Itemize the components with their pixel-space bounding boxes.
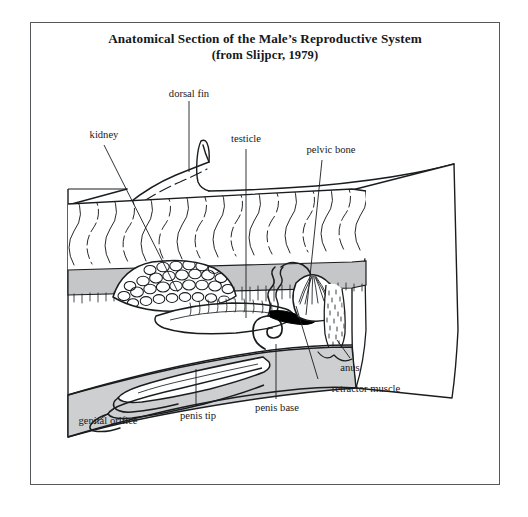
label-pelvic-bone: pelvic bone [306,144,355,155]
label-kidney: kidney [90,129,120,140]
label-testicle: testicle [231,133,261,144]
label-penis-base: penis base [255,402,299,413]
tailstock-outline [352,164,458,398]
figure-root: Anatomical Section of the Male’s Reprodu… [0,0,528,517]
label-dorsal-fin: dorsal fin [169,88,210,99]
label-penis-tip: penis tip [180,410,216,421]
label-anus: anus [340,362,359,373]
label-genital-orifice: genital orifice [78,415,137,426]
label-retractor-muscle: retractor muscle [332,383,401,394]
anatomical-diagram: dorsal fin kidney testicle pelvic bone a… [0,0,528,517]
